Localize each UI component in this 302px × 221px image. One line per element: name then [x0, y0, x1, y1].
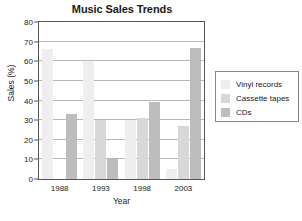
bar-1993-cd [107, 159, 118, 179]
plot-area [38, 21, 205, 180]
y-axis: 01020304050607080 [0, 21, 38, 180]
y-tick-label-60: 60 [24, 57, 33, 66]
legend-label: Cassette tapes [236, 94, 289, 103]
y-tick-label-40: 40 [24, 96, 33, 105]
bar-1998-cassette [137, 118, 148, 179]
y-tick-label-70: 70 [24, 37, 33, 46]
bar-group-1998 [122, 22, 163, 179]
bar-1988-vinyl [42, 49, 53, 179]
legend-item-cd[interactable]: CDs [221, 105, 294, 119]
x-tick-label-1998: 1998 [133, 184, 151, 193]
bar-1993-vinyl [83, 61, 94, 179]
legend-swatch-icon-vinyl [221, 80, 230, 89]
y-tick-label-50: 50 [24, 76, 33, 85]
bar-1988-cd [66, 114, 77, 179]
x-tick-label-2003: 2003 [174, 184, 192, 193]
bar-1998-vinyl [125, 120, 136, 179]
y-tick-label-20: 20 [24, 135, 33, 144]
bar-group-2003 [163, 22, 204, 179]
bar-1993-cassette [95, 120, 106, 179]
chart-legend: Vinyl recordsCassette tapesCDs [215, 71, 299, 122]
y-tick-label-80: 80 [24, 18, 33, 27]
bar-1998-cd [149, 102, 160, 179]
bar-group-1988 [39, 22, 80, 179]
x-axis-title: Year [38, 196, 205, 206]
bar-2003-cassette [178, 126, 189, 179]
legend-label: CDs [236, 108, 252, 117]
legend-swatch-icon-cd [221, 108, 230, 117]
chart-figure: Music Sales Trends Sales (%) 01020304050… [0, 0, 302, 221]
y-tick-label-30: 30 [24, 116, 33, 125]
legend-item-cassette[interactable]: Cassette tapes [221, 91, 294, 105]
y-tick-label-10: 10 [24, 155, 33, 164]
chart-title: Music Sales Trends [38, 3, 206, 15]
legend-label: Vinyl records [236, 80, 282, 89]
legend-item-vinyl[interactable]: Vinyl records [221, 77, 294, 91]
bar-2003-cd [190, 48, 201, 179]
legend-swatch-icon-cassette [221, 94, 230, 103]
x-axis: 1988199319982003 [38, 181, 205, 197]
bar-2003-vinyl [166, 169, 177, 179]
y-tick-label-0: 0 [29, 175, 33, 184]
x-tick-label-1988: 1988 [51, 184, 69, 193]
x-tick-label-1993: 1993 [92, 184, 110, 193]
bar-group-1993 [80, 22, 121, 179]
